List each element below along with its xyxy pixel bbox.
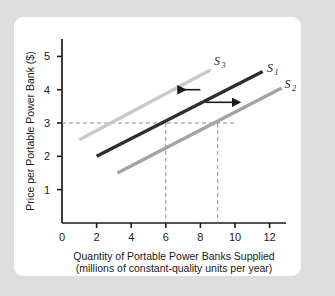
y-tick-label-5: 5	[44, 50, 50, 62]
x-axis-title: Quantity of Portable Power Banks Supplie…	[73, 250, 275, 274]
curve-label-s2: S 2	[285, 77, 297, 93]
x-tick-label-0: 0	[59, 231, 65, 243]
s1-label-text: S	[267, 61, 273, 75]
y-tick-label-4: 4	[44, 84, 50, 96]
x-axis-title-line1: Quantity of Portable Power Banks Supplie…	[73, 250, 275, 262]
x-tick-label-8: 8	[197, 231, 203, 243]
s1-label-subscript: 1	[275, 68, 279, 77]
y-tick-label-3: 3	[44, 117, 50, 129]
supply-curve-s2	[117, 88, 281, 173]
y-tick-label-1: 1	[44, 184, 50, 196]
s2-label-text: S	[285, 77, 291, 91]
y-tick-labels: 5 4 3 2 1	[44, 50, 50, 195]
s2-label-subscript: 2	[292, 84, 296, 93]
chart-svg: 5 4 3 2 1 0 2 4 6 8 10	[14, 17, 301, 276]
supply-curve-s3	[79, 70, 211, 140]
reference-lines	[62, 123, 235, 223]
x-tick-label-10: 10	[229, 231, 241, 243]
s1-line	[97, 71, 263, 156]
s3-line	[79, 70, 211, 140]
x-tick-label-12: 12	[263, 231, 275, 243]
curve-label-s3: S 3	[214, 54, 226, 70]
curve-label-s1: S 1	[267, 61, 279, 77]
x-tick-label-2: 2	[94, 231, 100, 243]
x-tick-label-4: 4	[128, 231, 134, 243]
s3-label-subscript: 3	[221, 61, 226, 70]
y-axis-title: Price per Portable Power Bank ($)	[24, 51, 36, 210]
y-axis-title-text: Price per Portable Power Bank ($)	[24, 51, 36, 210]
x-axis-title-line2: (millions of constant-quality units per …	[76, 262, 273, 274]
s3-label-text: S	[214, 54, 220, 68]
supply-curve-s1	[97, 71, 263, 156]
figure-card: 5 4 3 2 1 0 2 4 6 8 10	[14, 17, 301, 276]
s2-line	[117, 88, 281, 173]
supply-curve-chart: 5 4 3 2 1 0 2 4 6 8 10	[14, 17, 301, 276]
x-tick-labels: 0 2 4 6 8 10 12	[59, 231, 276, 243]
y-tick-label-2: 2	[44, 150, 50, 162]
x-tick-label-6: 6	[163, 231, 169, 243]
